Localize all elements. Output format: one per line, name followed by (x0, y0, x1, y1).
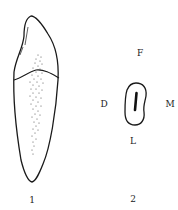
orientation-label-distal: D (100, 100, 107, 109)
orientation-label-lingual: L (130, 137, 136, 146)
root-cross-section (125, 83, 146, 125)
orientation-label-mesial: M (165, 100, 174, 109)
panel-1-label: 1 (29, 196, 35, 205)
orientation-label-facial: F (137, 49, 143, 58)
tooth-outline (14, 16, 59, 182)
panel-2-label: 2 (130, 195, 136, 204)
figure-drawing (0, 0, 178, 210)
